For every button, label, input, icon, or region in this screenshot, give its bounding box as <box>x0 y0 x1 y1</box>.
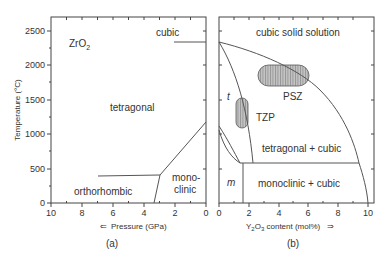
ytick-0: 0 <box>40 198 45 208</box>
system-label: ZrO2 <box>69 38 90 51</box>
xtick-b-0: 0 <box>216 208 221 218</box>
left-arrow-icon: ⇐ <box>100 222 107 231</box>
ytick-2500: 2500 <box>25 26 45 36</box>
x-axis-title-a: Pressure (GPa) <box>111 222 167 231</box>
xtick-4: 4 <box>141 208 146 218</box>
region-t: t <box>227 91 231 102</box>
region-monoclinic-cubic: monoclinic + cubic <box>258 178 340 189</box>
region-cubic-ss: cubic solid solution <box>256 27 340 38</box>
label-psz: PSZ <box>283 91 302 102</box>
panel-a-xtick-labels: 10 8 6 4 2 0 <box>46 208 209 218</box>
caption-b: (b) <box>287 238 299 249</box>
xtick-b-10: 10 <box>363 208 373 218</box>
phase-diagram-figure: 2500 2000 1500 1000 500 0 10 8 6 4 2 0 T… <box>0 0 390 260</box>
x-axis-title-b: Y2O3 content (mol%) <box>246 222 321 232</box>
region-tetragonal-cubic: tetragonal + cubic <box>262 143 341 154</box>
ortho-tetragonal-boundary <box>98 175 160 176</box>
region-tetragonal: tetragonal <box>110 102 154 113</box>
xtick-6: 6 <box>110 208 115 218</box>
ytick-1500: 1500 <box>25 95 45 105</box>
t-m-upper-boundary <box>219 126 240 163</box>
ytick-1000: 1000 <box>25 129 45 139</box>
tzp-zone <box>236 98 248 128</box>
region-m: m <box>227 177 235 188</box>
right-arrow-icon: ⇒ <box>327 222 334 231</box>
xtick-8: 8 <box>79 208 84 218</box>
panel-a-ytick-labels: 2500 2000 1500 1000 500 0 <box>25 26 45 208</box>
xtick-b-8: 8 <box>335 208 340 218</box>
xtick-b-4: 4 <box>276 208 281 218</box>
xtick-b-6: 6 <box>305 208 310 218</box>
xtick-10: 10 <box>46 208 56 218</box>
y-axis-title: Temperature (°C) <box>13 79 22 141</box>
region-orthorhombic: orthorhombic <box>74 186 132 197</box>
ytick-2000: 2000 <box>25 60 45 70</box>
panel-b-xtick-labels: 0 2 4 6 8 10 <box>216 208 373 218</box>
region-cubic: cubic <box>156 27 179 38</box>
ortho-mono-boundary <box>154 175 160 203</box>
xtick-b-2: 2 <box>246 208 251 218</box>
xtick-0: 0 <box>203 208 208 218</box>
ytick-500: 500 <box>30 164 45 174</box>
caption-a: (a) <box>106 238 118 249</box>
label-tzp: TZP <box>256 112 275 123</box>
panel-b: 0 2 4 6 8 10 Y2O3 content (mol%) ⇒ (b) c… <box>216 17 374 249</box>
xtick-2: 2 <box>172 208 177 218</box>
panel-a: 2500 2000 1500 1000 500 0 10 8 6 4 2 0 T… <box>13 17 209 249</box>
region-monoclinic-line2: clinic <box>174 184 196 195</box>
region-monoclinic-line1: mono- <box>172 172 200 183</box>
mono-tetragonal-boundary <box>160 122 206 175</box>
